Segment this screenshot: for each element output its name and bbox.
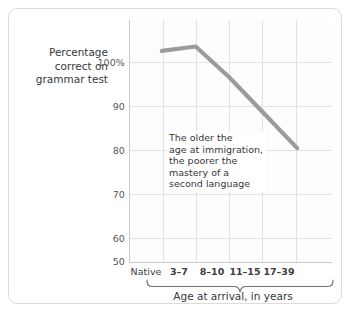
x-axis-tick-labels: Native 3–7 8–10 11–15 17–39 xyxy=(129,266,332,280)
annotation-line-2: age at immigration, xyxy=(169,144,263,156)
chart-annotation: The older the age at immigration, the po… xyxy=(167,131,266,192)
x-axis-title: Age at arrival, in years xyxy=(129,290,337,302)
chart-figure: Percentage correct on grammar test 100% … xyxy=(0,0,352,321)
annotation-line-4: mastery of a xyxy=(169,167,263,179)
y-tick-label-100: 100% xyxy=(65,57,125,68)
y-tick-label-90: 90 xyxy=(65,101,125,112)
annotation-line-1: The older the xyxy=(169,132,263,144)
y-axis-tick-labels: 100% 90 80 70 60 50 xyxy=(62,20,125,263)
y-tick-label-70: 70 xyxy=(65,189,125,200)
annotation-line-5: second language xyxy=(169,178,263,190)
y-tick-label-80: 80 xyxy=(65,145,125,156)
annotation-line-3: the poorer the xyxy=(169,155,263,167)
y-tick-label-50: 50 xyxy=(65,256,125,267)
x-tick-label-17-39: 17–39 xyxy=(258,266,300,277)
y-tick-label-60: 60 xyxy=(65,233,125,244)
